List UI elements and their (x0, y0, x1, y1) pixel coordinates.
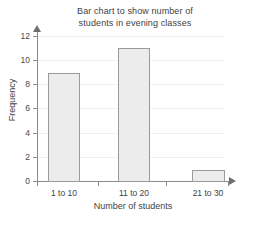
y-axis-arrow-icon (33, 25, 41, 32)
y-tick-10 (33, 60, 38, 61)
y-tick-label-4: 4 (16, 128, 30, 138)
gridline-12 (38, 36, 224, 37)
x-tick-label-11-to-20: 11 to 20 (103, 188, 165, 198)
y-tick-label-2: 2 (16, 152, 30, 162)
chart-title-line-1: Bar chart to show number of (30, 6, 240, 18)
bar-chart: Bar chart to show number of students in … (0, 0, 255, 226)
x-axis-title: Number of students (38, 201, 228, 211)
x-tick-label-21-to-30: 21 to 30 (177, 188, 239, 198)
chart-title: Bar chart to show number of students in … (30, 6, 240, 29)
y-tick-12 (33, 36, 38, 37)
y-tick-label-0: 0 (16, 176, 30, 186)
y-tick-8 (33, 84, 38, 85)
y-tick-label-10: 10 (16, 55, 30, 65)
y-axis-line (37, 31, 38, 182)
x-tick-2 (166, 182, 167, 186)
x-tick-0 (37, 182, 38, 186)
x-tick-3 (228, 182, 229, 186)
bar-11-to-20 (118, 48, 150, 182)
y-tick-label-12: 12 (16, 31, 30, 41)
bar-1-to-10 (48, 73, 80, 182)
x-axis-arrow-icon (229, 177, 236, 185)
x-tick-label-1-to-10: 1 to 10 (33, 188, 95, 198)
y-tick-label-8: 8 (16, 79, 30, 89)
y-tick-label-6: 6 (16, 103, 30, 113)
y-tick-6 (33, 108, 38, 109)
x-tick-1 (98, 182, 99, 186)
y-axis-title: Frequency (7, 60, 17, 140)
chart-title-line-2: students in evening classes (30, 18, 240, 30)
y-tick-2 (33, 157, 38, 158)
bar-21-to-30 (192, 170, 225, 182)
y-tick-4 (33, 133, 38, 134)
